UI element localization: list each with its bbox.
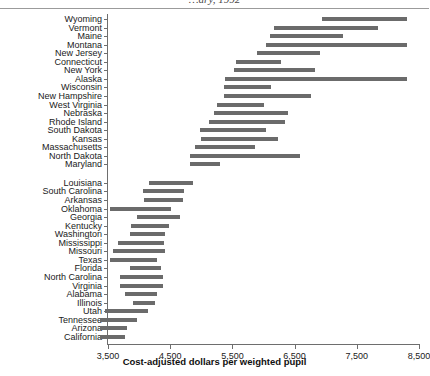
y-axis-tick	[104, 200, 108, 201]
x-tick-mark	[232, 344, 233, 349]
range-bar	[143, 189, 184, 193]
range-bar	[190, 162, 220, 166]
title-divider-rule	[0, 8, 429, 9]
y-axis-tick	[104, 28, 108, 29]
range-bar	[110, 207, 171, 211]
range-bar	[224, 85, 271, 89]
figure-title: …ary, 1992	[0, 0, 429, 5]
y-axis-tick	[104, 234, 108, 235]
y-axis-tick	[104, 268, 108, 269]
range-bar	[144, 198, 183, 202]
y-axis-tick	[104, 147, 108, 148]
state-label: California	[64, 331, 102, 343]
x-axis-title: Cost-adjusted dollars per weighted pupil	[0, 356, 429, 367]
y-axis-tick	[104, 251, 108, 252]
y-axis-tick	[104, 156, 108, 157]
y-axis-tick	[104, 191, 108, 192]
range-bar	[133, 301, 155, 305]
range-bar	[225, 77, 407, 81]
y-axis-tick	[104, 87, 108, 88]
y-axis-tick	[104, 164, 108, 165]
range-bar	[118, 241, 164, 245]
plot-area: WyomingVermontMaineMontanaNew JerseyConn…	[108, 14, 419, 344]
x-tick-mark	[419, 344, 420, 349]
range-bar	[130, 232, 165, 236]
y-axis-tick	[104, 243, 108, 244]
x-tick-mark	[357, 344, 358, 349]
range-bar	[234, 68, 315, 72]
x-tick-mark	[295, 344, 296, 349]
y-axis-tick	[104, 36, 108, 37]
range-bar	[190, 154, 300, 158]
y-axis-tick	[104, 183, 108, 184]
range-bar	[130, 266, 161, 270]
range-bar	[120, 275, 162, 279]
y-axis-tick	[104, 62, 108, 63]
y-axis-tick	[104, 79, 108, 80]
range-bar	[236, 60, 281, 64]
range-bar	[217, 103, 264, 107]
range-bar	[200, 128, 266, 132]
range-bar	[201, 137, 278, 141]
range-bar	[105, 309, 148, 313]
chart-row: California	[108, 331, 419, 343]
range-bar	[137, 215, 180, 219]
range-bar	[266, 43, 407, 47]
y-axis-tick	[104, 294, 108, 295]
range-bar	[100, 326, 127, 330]
y-axis-tick	[104, 139, 108, 140]
y-axis-tick	[104, 130, 108, 131]
y-axis-tick	[104, 209, 108, 210]
x-tick-mark	[170, 344, 171, 349]
y-axis-tick	[104, 96, 108, 97]
range-bar	[274, 26, 378, 30]
chart-row: Maryland	[108, 158, 419, 170]
y-axis-tick	[104, 113, 108, 114]
y-axis-tick	[104, 217, 108, 218]
range-bar	[131, 224, 169, 228]
range-bar	[125, 292, 157, 296]
y-axis-tick	[104, 105, 108, 106]
y-axis-tick	[104, 277, 108, 278]
range-bar	[195, 145, 255, 149]
y-axis-tick	[104, 303, 108, 304]
range-bar	[322, 17, 407, 21]
range-bar	[100, 335, 125, 339]
range-bar	[214, 111, 288, 115]
y-axis-tick	[104, 53, 108, 54]
range-bar	[110, 258, 157, 262]
x-tick-mark	[108, 344, 109, 349]
y-axis-tick	[104, 260, 108, 261]
y-axis-tick	[104, 45, 108, 46]
y-axis-tick	[104, 70, 108, 71]
y-axis-tick	[104, 122, 108, 123]
y-axis-tick	[104, 226, 108, 227]
range-bar	[224, 94, 310, 98]
state-label: Maryland	[65, 158, 102, 170]
range-bar	[120, 284, 163, 288]
x-axis-line	[107, 344, 419, 345]
y-axis-tick	[104, 286, 108, 287]
range-bar	[149, 181, 193, 185]
range-bar	[113, 249, 165, 253]
range-bar	[100, 318, 137, 322]
range-bar	[270, 34, 343, 38]
range-bar	[209, 120, 285, 124]
range-bar	[257, 51, 320, 55]
y-axis-tick	[104, 19, 108, 20]
